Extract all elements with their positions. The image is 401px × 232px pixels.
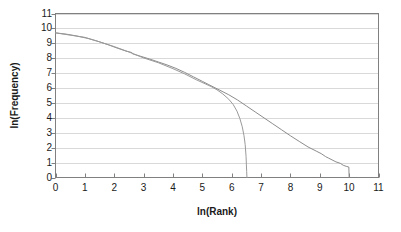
y-tick-label: 2 [34, 143, 52, 153]
y-tick-label: 0 [34, 173, 52, 183]
x-tick-label: 7 [249, 183, 273, 193]
y-axis-label: ln(Frequency) [4, 0, 24, 190]
x-tick-label: 0 [44, 183, 68, 193]
y-tick-label: 5 [34, 98, 52, 108]
y-tick-label: 10 [34, 23, 52, 33]
x-tick-label: 11 [367, 183, 391, 193]
y-tick-label: 6 [34, 83, 52, 93]
y-tick-label: 8 [34, 53, 52, 63]
y-tick-label: 1 [34, 158, 52, 168]
x-tick-label: 6 [220, 183, 244, 193]
x-tick-label: 9 [308, 183, 332, 193]
x-axis-ticks [57, 174, 380, 178]
y-tick-label: 11 [34, 9, 52, 19]
chart-figure: ln(Frequency) 01234567891011 ln(Rank) 01… [0, 0, 401, 232]
y-tick-label: 3 [34, 128, 52, 138]
y-axis-tick-labels: 01234567891011 [30, 0, 52, 232]
y-tick-label: 4 [34, 113, 52, 123]
x-tick-label: 3 [132, 183, 156, 193]
y-tick-label: 9 [34, 38, 52, 48]
x-tick-label: 5 [190, 183, 214, 193]
x-tick-label: 4 [161, 183, 185, 193]
y-axis-label-text: ln(Frequency) [9, 62, 20, 128]
y-axis-ticks [52, 15, 56, 179]
x-axis-label: ln(Rank) [55, 206, 379, 217]
plot-frame [56, 14, 379, 178]
x-tick-label: 8 [278, 183, 302, 193]
x-tick-label: 2 [102, 183, 126, 193]
x-tick-label: 1 [73, 183, 97, 193]
series-empirical [56, 33, 350, 178]
x-tick-label: 10 [337, 183, 361, 193]
plot-area [0, 0, 401, 232]
y-tick-label: 7 [34, 68, 52, 78]
data-series [56, 33, 350, 178]
series-fitted [56, 33, 247, 178]
